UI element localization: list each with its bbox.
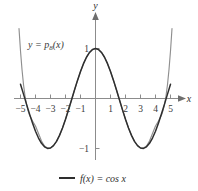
x-tick-label: −1	[75, 104, 85, 114]
x-tick-labels: −5 −4 −3 −2 −1 1 2 3 4 5	[15, 104, 173, 114]
y-axis-arrow-icon	[92, 12, 99, 20]
x-tick-label: 3	[138, 104, 143, 114]
polynomial-label-main: y = p	[27, 39, 49, 50]
x-tick-label: −5	[15, 104, 25, 114]
legend-label-cosine: f(x) = cos x	[80, 173, 126, 185]
x-axis-label: x	[186, 93, 192, 104]
x-tick-label: −4	[30, 104, 40, 114]
x-tick-label: 5	[168, 104, 173, 114]
x-tick-label: 1	[108, 104, 113, 114]
polynomial-curve-label: y = p8(x)	[27, 39, 64, 52]
y-tick-label: 1	[84, 44, 89, 54]
y-axis-label: y	[92, 0, 98, 11]
plot-canvas: −5 −4 −3 −2 −1 1 2 3 4 5 1 −1 x y y = p8…	[0, 0, 198, 191]
x-tick-label: −3	[45, 104, 55, 114]
taylor-polynomial-cosine-figure: −5 −4 −3 −2 −1 1 2 3 4 5 1 −1 x y y = p8…	[0, 0, 198, 191]
x-tick-label: 2	[123, 104, 128, 114]
polynomial-label-tail: (x)	[53, 39, 65, 51]
y-tick-label: −1	[79, 144, 89, 154]
x-axis-arrow-icon	[178, 95, 186, 102]
legend: f(x) = cos x	[59, 173, 126, 185]
x-tick-label: −2	[60, 104, 70, 114]
x-tick-label: 4	[153, 104, 158, 114]
